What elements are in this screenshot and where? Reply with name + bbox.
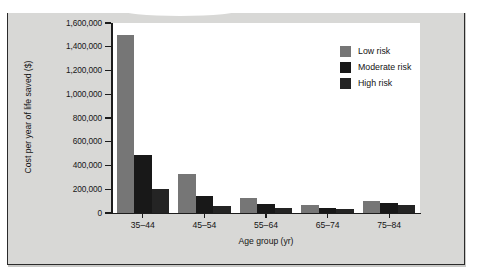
y-axis-tick-label: 1,200,000 bbox=[38, 65, 102, 75]
y-axis-tick bbox=[105, 165, 111, 166]
x-axis-tick-label: 45–54 bbox=[174, 220, 234, 230]
y-axis-tick bbox=[105, 70, 111, 71]
y-axis-tick-label-text: 1,000,000 bbox=[40, 89, 102, 99]
bar bbox=[196, 196, 214, 213]
y-axis-tick bbox=[105, 117, 111, 118]
y-axis-tick bbox=[105, 46, 111, 47]
y-axis-tick-label-text: 1,600,000 bbox=[40, 18, 102, 28]
legend-swatch-icon bbox=[340, 46, 351, 57]
y-axis-tick-label: 1,000,000 bbox=[38, 89, 102, 99]
x-axis-tick bbox=[204, 213, 205, 218]
bar bbox=[363, 201, 381, 213]
scan-edge-bump bbox=[120, 4, 240, 16]
x-axis-tick-label: 65–74 bbox=[298, 220, 358, 230]
legend-item: High risk bbox=[340, 75, 411, 91]
y-axis-tick-label-text: 600,000 bbox=[40, 136, 102, 146]
y-axis-tick-label: 200,000 bbox=[38, 184, 102, 194]
y-axis-tick-label: 0 bbox=[38, 208, 102, 218]
y-axis-title: Cost per year of life saved ($) bbox=[23, 42, 33, 192]
legend-item-label: High risk bbox=[358, 78, 392, 88]
y-axis-tick bbox=[105, 189, 111, 190]
x-axis-tick bbox=[327, 213, 328, 218]
legend-item: Moderate risk bbox=[340, 59, 411, 75]
legend-swatch-icon bbox=[340, 62, 351, 73]
y-axis-tick-label: 600,000 bbox=[38, 136, 102, 146]
y-axis-tick-label: 1,600,000 bbox=[38, 18, 102, 28]
y-axis-tick-label: 800,000 bbox=[38, 113, 102, 123]
y-axis-tick bbox=[105, 141, 111, 142]
y-axis-tick-label-text: 1,400,000 bbox=[40, 41, 102, 51]
x-axis-tick-label: 55–64 bbox=[236, 220, 296, 230]
y-axis-tick-label-text: 200,000 bbox=[40, 184, 102, 194]
bar bbox=[134, 155, 152, 213]
legend-swatch-icon bbox=[340, 78, 351, 89]
bar bbox=[240, 198, 258, 213]
figure-root: 0200,000400,000600,000800,0001,000,0001,… bbox=[0, 0, 479, 279]
y-axis-tick-label-text: 0 bbox=[40, 208, 102, 218]
legend-item-label: Low risk bbox=[358, 46, 390, 56]
y-axis-tick-label: 1,400,000 bbox=[38, 41, 102, 51]
y-axis-tick bbox=[105, 212, 111, 213]
scan-edge-bump bbox=[330, 4, 460, 13]
bar bbox=[178, 174, 196, 213]
legend-item: Low risk bbox=[340, 43, 411, 59]
y-axis-tick bbox=[105, 94, 111, 95]
x-axis-tick bbox=[142, 213, 143, 218]
y-axis-tick-label-text: 400,000 bbox=[40, 160, 102, 170]
y-axis-line bbox=[111, 23, 113, 214]
x-axis-tick bbox=[389, 213, 390, 218]
y-axis-tick-label: 400,000 bbox=[38, 160, 102, 170]
x-axis-tick-label: 75–84 bbox=[359, 220, 419, 230]
x-axis-tick bbox=[265, 213, 266, 218]
y-axis-tick-label-text: 1,200,000 bbox=[40, 65, 102, 75]
bar bbox=[152, 189, 170, 213]
legend-item-label: Moderate risk bbox=[358, 62, 411, 72]
chart-legend: Low riskModerate riskHigh risk bbox=[340, 43, 411, 91]
y-axis-tick-label-text: 800,000 bbox=[40, 113, 102, 123]
bar bbox=[117, 35, 135, 213]
x-axis-title: Age group (yr) bbox=[112, 236, 420, 246]
x-axis-tick-label: 35–44 bbox=[113, 220, 173, 230]
y-axis-tick bbox=[105, 22, 111, 23]
